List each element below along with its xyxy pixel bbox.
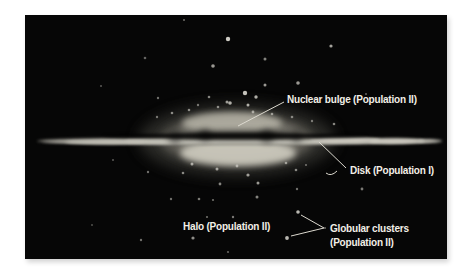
star <box>295 169 298 172</box>
star <box>329 44 332 47</box>
star <box>232 216 234 218</box>
star <box>191 163 194 166</box>
star <box>243 91 247 95</box>
star <box>226 101 229 104</box>
galaxy-image: Nuclear bulge (Population II) Disk (Popu… <box>25 15 447 259</box>
globular-leader-line-upper <box>301 215 324 228</box>
star <box>183 19 185 21</box>
star <box>100 85 102 87</box>
star <box>191 236 194 239</box>
star <box>264 84 267 87</box>
star <box>206 216 208 218</box>
star <box>157 97 159 99</box>
star <box>156 116 158 118</box>
star <box>219 183 222 186</box>
star <box>291 116 294 119</box>
star <box>256 196 259 199</box>
star <box>296 81 300 85</box>
star <box>257 182 260 185</box>
star <box>182 172 185 175</box>
disk-leader-hook <box>326 171 337 175</box>
star <box>188 109 191 112</box>
star <box>91 224 93 226</box>
star <box>271 113 274 116</box>
star <box>212 199 214 201</box>
star <box>217 106 220 109</box>
star <box>198 198 201 201</box>
star <box>305 164 307 166</box>
star <box>324 227 326 229</box>
star <box>246 173 249 176</box>
star <box>247 104 250 107</box>
star <box>171 112 174 115</box>
star <box>140 239 142 241</box>
star <box>285 236 289 240</box>
star <box>211 64 215 68</box>
star <box>227 251 229 253</box>
star <box>144 57 147 60</box>
star <box>197 104 199 106</box>
star <box>147 171 149 173</box>
star <box>236 165 239 168</box>
label-disk: Disk (Population I) <box>350 165 434 177</box>
star <box>333 123 336 126</box>
star <box>228 101 232 105</box>
figure-page: Nuclear bulge (Population II) Disk (Popu… <box>0 0 467 280</box>
globular-leader-line-lower <box>291 228 324 236</box>
star <box>112 159 114 161</box>
star <box>361 188 364 191</box>
label-nuclear-bulge: Nuclear bulge (Population II) <box>287 94 417 106</box>
star <box>226 37 230 41</box>
label-globular-clusters-line1: Globular clusters <box>330 223 409 234</box>
star <box>170 198 172 200</box>
label-globular-clusters-line2: (Population II) <box>330 237 394 248</box>
star <box>252 111 255 114</box>
star <box>296 210 300 214</box>
label-halo: Halo (Population II) <box>183 221 270 233</box>
star <box>285 162 288 165</box>
star <box>264 58 267 61</box>
star <box>311 120 313 122</box>
star <box>216 168 219 171</box>
star <box>296 188 298 190</box>
label-globular-clusters: Globular clusters (Population II) <box>330 222 440 249</box>
star <box>254 95 257 98</box>
star <box>208 96 211 99</box>
